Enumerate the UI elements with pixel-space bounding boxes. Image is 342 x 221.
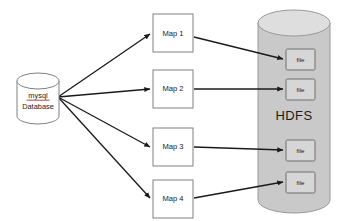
file-4: file (286, 172, 315, 193)
map-box-group: Map 1 Map 2 Map 3 Map 4 (153, 14, 193, 218)
map-2: Map 2 (153, 70, 193, 108)
edges-database-to-maps (58, 34, 150, 198)
file-1: file (286, 49, 315, 70)
diagram-canvas: HDFS file file file file (0, 0, 342, 221)
map-3: Map 3 (153, 128, 193, 166)
hdfs-label: HDFS (276, 108, 313, 123)
map-1-label: Map 1 (162, 29, 183, 38)
map-3-label: Map 3 (162, 142, 183, 151)
diagram-svg: HDFS file file file file (0, 0, 342, 221)
mysql-label-line1: mysql (28, 91, 48, 100)
edge-db-to-map-4 (58, 97, 150, 198)
edge-db-to-map-3 (58, 97, 150, 147)
edge-db-to-map-2 (58, 89, 150, 97)
mysql-database-cylinder: mysql Database (17, 73, 59, 124)
map-4: Map 4 (153, 180, 193, 218)
file-4-label: file (297, 179, 305, 186)
file-2: file (286, 79, 315, 100)
mysql-label-line2: Database (22, 102, 54, 111)
file-1-label: file (297, 56, 305, 63)
edge-db-to-map-1 (58, 34, 150, 97)
map-1: Map 1 (153, 14, 193, 52)
map-2-label: Map 2 (162, 84, 183, 93)
file-3-label: file (297, 147, 305, 154)
mysql-cylinder-top (17, 73, 59, 89)
file-3: file (286, 140, 315, 161)
file-2-label: file (297, 86, 305, 93)
hdfs-cylinder-top (258, 10, 330, 36)
map-4-label: Map 4 (162, 194, 183, 203)
